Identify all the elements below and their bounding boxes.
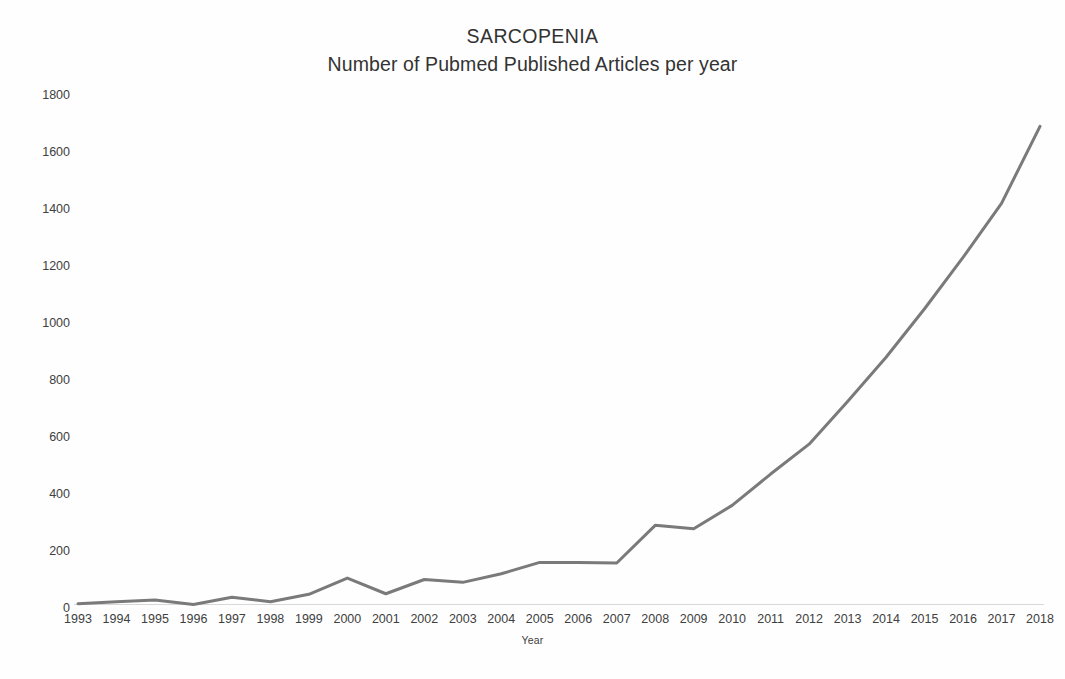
x-tick-label: 2008 <box>641 612 669 626</box>
x-tick-label: 2015 <box>911 612 939 626</box>
x-axis-title: Year <box>0 634 1065 646</box>
x-tick-label: 1993 <box>64 612 92 626</box>
y-axis: 020040060080010001200140016001800 <box>0 95 70 608</box>
chart-subtitle: Number of Pubmed Published Articles per … <box>0 52 1065 77</box>
x-tick-label: 2010 <box>718 612 746 626</box>
x-tick-label: 2012 <box>795 612 823 626</box>
x-tick-label: 2016 <box>949 612 977 626</box>
y-tick-label: 200 <box>0 544 70 558</box>
y-tick-label: 1400 <box>0 202 70 216</box>
y-tick-label: 800 <box>0 373 70 387</box>
y-tick-label: 600 <box>0 430 70 444</box>
y-tick-label: 0 <box>0 601 70 615</box>
x-tick-label: 2004 <box>487 612 515 626</box>
x-tick-label: 2014 <box>872 612 900 626</box>
x-tick-label: 1998 <box>256 612 284 626</box>
y-tick-label: 1800 <box>0 88 70 102</box>
x-tick-label: 2001 <box>372 612 400 626</box>
y-tick-label: 1000 <box>0 316 70 330</box>
x-tick-label: 1994 <box>103 612 131 626</box>
x-tick-label: 2018 <box>1026 612 1054 626</box>
x-tick-label: 2006 <box>564 612 592 626</box>
x-tick-label: 2011 <box>757 612 784 626</box>
x-tick-label: 2017 <box>988 612 1016 626</box>
y-tick-label: 1200 <box>0 259 70 273</box>
x-tick-label: 2013 <box>834 612 862 626</box>
line-series-svg <box>78 95 1040 608</box>
chart-title: SARCOPENIA <box>0 24 1065 49</box>
x-axis: 1993199419951996199719981999200020012002… <box>78 612 1040 634</box>
plot-area <box>78 95 1040 608</box>
x-tick-label: 2007 <box>603 612 631 626</box>
x-tick-label: 1999 <box>295 612 323 626</box>
x-tick-label: 1996 <box>180 612 208 626</box>
x-tick-label: 2003 <box>449 612 477 626</box>
x-tick-label: 1997 <box>218 612 246 626</box>
chart-title-block: SARCOPENIA Number of Pubmed Published Ar… <box>0 24 1065 78</box>
x-tick-label: 1995 <box>141 612 169 626</box>
x-tick-label: 2002 <box>410 612 438 626</box>
y-tick-label: 400 <box>0 487 70 501</box>
x-tick-label: 2000 <box>333 612 361 626</box>
y-tick-label: 1600 <box>0 145 70 159</box>
x-tick-label: 2009 <box>680 612 708 626</box>
line-series-path <box>78 126 1040 604</box>
chart-container: SARCOPENIA Number of Pubmed Published Ar… <box>0 0 1065 679</box>
x-tick-label: 2005 <box>526 612 554 626</box>
